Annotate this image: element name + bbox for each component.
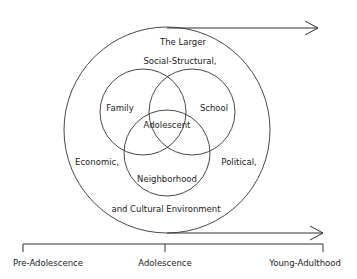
label-social-structural: Social-Structural, — [143, 57, 216, 66]
label-school: School — [200, 104, 228, 113]
top-arrow — [167, 21, 318, 35]
timeline-axis — [23, 244, 323, 252]
label-economic: Economic, — [75, 158, 119, 167]
label-family: Family — [106, 104, 133, 113]
label-political: Political, — [221, 158, 256, 167]
label-cultural-environment: and Cultural Environment — [111, 205, 220, 214]
label-the-larger: The Larger — [160, 38, 206, 47]
timeline-label-adolescence: Adolescence — [138, 259, 191, 268]
bottom-arrow — [167, 226, 323, 240]
timeline-label-pre-adolescence: Pre-Adolescence — [13, 259, 83, 268]
label-adolescent: Adolescent — [144, 121, 191, 130]
timeline-label-young-adulthood: Young-Adulthood — [269, 259, 341, 268]
label-neighborhood: Neighborhood — [137, 175, 197, 184]
